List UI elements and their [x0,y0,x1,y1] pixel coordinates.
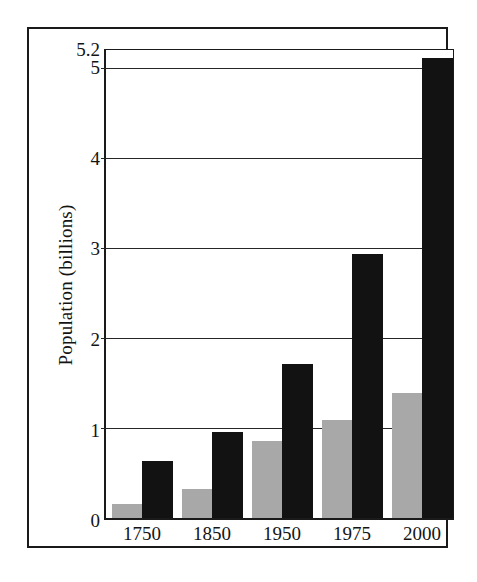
ytick-label-2: 2 [91,329,101,351]
xtick-label-2000: 2000 [403,523,441,545]
bar-1975-gray [322,420,352,518]
xtick-label-1750: 1750 [123,523,161,545]
bar-2000-gray [392,393,422,518]
ytick-label-5: 5 [91,57,101,79]
bar-1750-gray [112,504,142,518]
figure-frame: Population (billions) 5.2 5 4 3 2 1 0 [27,27,448,548]
bar-1750-black [142,461,173,518]
xtick-label-1950: 1950 [263,523,301,545]
chart-page: Population (billions) 5.2 5 4 3 2 1 0 [0,0,477,582]
ytick-label-0: 0 [91,510,101,532]
y-axis-title: Population (billions) [55,175,77,395]
bar-1850-black [212,432,243,518]
xtick-label-1975: 1975 [333,523,371,545]
plot-area: 5.2 5 4 3 2 1 0 1750 1850 [104,49,454,520]
ytick-label-4: 4 [91,148,101,170]
bar-1950-black [282,364,313,518]
xtick-label-1850: 1850 [193,523,231,545]
bar-2000-black [422,58,453,518]
bar-1975-black [352,254,383,518]
bar-1850-gray [182,489,212,518]
ytick-label-3: 3 [91,238,101,260]
bar-1950-gray [252,441,282,518]
ytick-label-1: 1 [91,420,101,442]
bar-group-container [106,50,453,518]
